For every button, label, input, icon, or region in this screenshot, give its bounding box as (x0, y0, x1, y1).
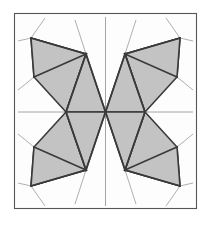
crease-pattern-figure (0, 0, 211, 229)
crease-pattern-canvas (0, 0, 211, 229)
